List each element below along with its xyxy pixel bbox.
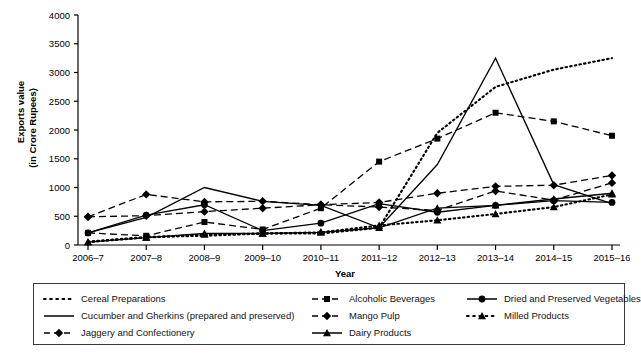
x-tick-label: 2011–12	[361, 252, 397, 263]
legend-label: Cucumber and Gherkins (prepared and pres…	[81, 311, 294, 321]
legend-label: Cereal Preparations	[81, 294, 166, 304]
data-point	[434, 136, 440, 142]
chart-legend: Cereal PreparationsAlcoholic BeveragesDr…	[33, 283, 625, 345]
data-point	[85, 230, 92, 237]
data-point	[143, 212, 150, 219]
x-tick-label: 2014–15	[535, 252, 572, 263]
x-tick-label: 2007–8	[130, 252, 162, 263]
data-point	[550, 181, 558, 189]
data-point	[201, 219, 207, 225]
data-point	[376, 159, 382, 165]
solid-circle-sample	[465, 293, 499, 305]
x-tick-label: 2006–7	[72, 252, 104, 263]
legend-label: Dairy Products	[349, 328, 411, 338]
solid-triangle-sample	[310, 327, 344, 339]
data-point	[608, 179, 616, 187]
data-point	[609, 133, 615, 139]
legend-label: Dried and Preserved Vegetables	[504, 294, 641, 304]
data-point	[491, 187, 499, 195]
series-layer	[84, 58, 616, 245]
solid-none-sample	[42, 310, 76, 322]
data-point	[609, 199, 616, 206]
series-cucumber-and-gherkins-prepared-and-preserved	[88, 58, 612, 233]
y-tick-label: 0	[65, 240, 70, 251]
data-point	[492, 202, 499, 209]
legend-item[interactable]: Cereal Preparations	[42, 293, 310, 305]
data-point	[84, 213, 92, 221]
legend-item[interactable]: Jaggery and Confectionery	[42, 327, 310, 339]
legend-item[interactable]: Mango Pulp	[310, 310, 465, 322]
x-tick-label: 2012–13	[419, 252, 456, 263]
x-axis-title: Year	[335, 268, 355, 279]
dotted-none-sample	[42, 293, 76, 305]
data-point	[608, 171, 616, 179]
dotted-triangle-sample	[465, 310, 499, 322]
data-point	[142, 190, 150, 198]
y-tick-label: 3000	[49, 67, 70, 78]
dashed-square-sample	[310, 293, 344, 305]
y-tick-label: 500	[54, 211, 70, 222]
line-chart-plot: 05001000150020002500300035004000 2006–72…	[0, 0, 630, 286]
y-tick-label: 3500	[49, 38, 70, 49]
series-alcoholic-beverages	[85, 110, 615, 239]
x-tick-label: 2008–9	[189, 252, 221, 263]
x-tick-label: 2015–16	[594, 252, 630, 263]
legend-item[interactable]: Cucumber and Gherkins (prepared and pres…	[42, 310, 310, 322]
legend-item[interactable]: Milled Products	[465, 310, 641, 322]
data-point	[434, 209, 441, 216]
y-tick-label: 1000	[49, 182, 70, 193]
legend-item[interactable]: Dairy Products	[310, 327, 465, 339]
y-axis-ticks: 05001000150020002500300035004000	[49, 10, 78, 251]
data-point	[551, 118, 557, 124]
legend-sample-icon	[310, 293, 344, 305]
legend-label: Mango Pulp	[349, 311, 400, 321]
y-tick-label: 2500	[49, 96, 70, 107]
legend-item[interactable]: Alcoholic Beverages	[310, 293, 465, 305]
y-axis-title-line2: (in Crore Rupees)	[27, 88, 38, 168]
legend-sample-icon	[465, 310, 499, 322]
legend-label: Milled Products	[504, 311, 569, 321]
y-tick-label: 1500	[49, 153, 70, 164]
data-point	[317, 220, 324, 227]
series-milled-products	[84, 190, 616, 245]
dashed-diamond-sample	[310, 310, 344, 322]
legend-label: Alcoholic Beverages	[349, 294, 435, 304]
y-tick-label: 4000	[49, 10, 70, 21]
legend-sample-icon	[42, 293, 76, 305]
legend-sample-icon	[42, 327, 76, 339]
data-point	[201, 201, 208, 208]
x-tick-label: 2010–11	[303, 252, 339, 263]
legend-sample-icon	[310, 327, 344, 339]
data-point	[258, 197, 266, 205]
legend-item[interactable]: Dried and Preserved Vegetables	[465, 293, 641, 305]
x-axis-ticks: 2006–72007–82008–92009–102010–112011–122…	[72, 245, 630, 263]
legend-label: Jaggery and Confectionery	[81, 328, 195, 338]
legend-sample-icon	[310, 310, 344, 322]
data-point	[433, 189, 441, 197]
data-point	[493, 110, 499, 116]
dashed-diamond-sample	[42, 327, 76, 339]
x-tick-label: 2013–14	[477, 252, 514, 263]
y-axis-title-line1: Exports value	[15, 81, 26, 143]
data-point	[200, 207, 208, 215]
data-point	[376, 200, 383, 207]
legend-sample-icon	[42, 310, 76, 322]
legend-sample-icon	[465, 293, 499, 305]
x-tick-label: 2009–10	[244, 252, 281, 263]
y-tick-label: 2000	[49, 125, 70, 136]
